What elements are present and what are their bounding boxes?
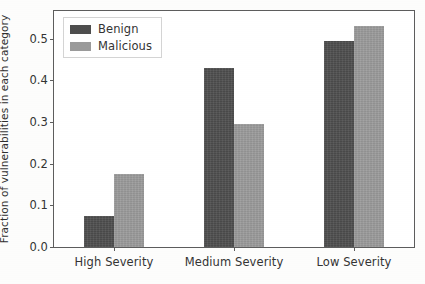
bar-benign-low-severity <box>324 41 354 247</box>
y-tick-mark <box>50 122 54 123</box>
y-tick-label: 0.1 <box>29 198 48 212</box>
x-tick-mark <box>234 247 235 251</box>
y-tick-mark <box>50 39 54 40</box>
bar-malicious-low-severity <box>354 26 384 247</box>
x-tick-label-medium-severity: Medium Severity <box>185 255 284 269</box>
x-tick-mark <box>114 247 115 251</box>
y-tick-mark <box>50 205 54 206</box>
legend-item-benign: Benign <box>70 22 152 36</box>
y-tick-label: 0.2 <box>29 157 48 171</box>
bar-benign-high-severity <box>84 216 114 247</box>
y-tick-mark <box>50 164 54 165</box>
y-tick-mark <box>50 247 54 248</box>
x-tick-label-low-severity: Low Severity <box>317 255 392 269</box>
legend-item-malicious: Malicious <box>70 39 152 53</box>
x-tick-mark <box>354 247 355 251</box>
figure: Fraction of vulnerabilities in each cate… <box>0 0 425 284</box>
y-tick-label: 0.3 <box>29 115 48 129</box>
legend-label-benign: Benign <box>98 22 139 36</box>
legend-swatch-benign <box>70 25 91 34</box>
y-tick-label: 0.0 <box>29 240 48 254</box>
x-tick-label-high-severity: High Severity <box>75 255 154 269</box>
y-tick-label: 0.4 <box>29 73 48 87</box>
legend-swatch-malicious <box>70 42 91 51</box>
y-tick-mark <box>50 80 54 81</box>
legend-label-malicious: Malicious <box>98 39 152 53</box>
y-axis-label: Fraction of vulnerabilities in each cate… <box>0 15 10 243</box>
bar-malicious-medium-severity <box>234 124 264 247</box>
bar-benign-medium-severity <box>204 68 234 247</box>
plot-axes: Benign Malicious High SeverityMedium Sev… <box>53 10 415 248</box>
legend: Benign Malicious <box>63 17 162 58</box>
bar-malicious-high-severity <box>114 174 144 247</box>
y-tick-label: 0.5 <box>29 32 48 46</box>
